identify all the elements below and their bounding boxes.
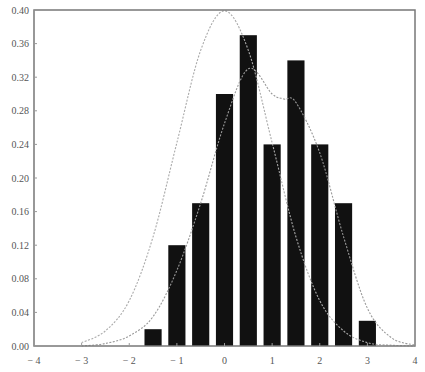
x-tick-label: − 4 [27, 355, 40, 366]
x-tick-label: 1 [270, 355, 275, 366]
histogram-bar [144, 329, 161, 346]
y-tick-label: 0.00 [12, 341, 30, 352]
y-tick-label: 0.28 [12, 105, 30, 116]
histogram-bar [216, 94, 233, 346]
y-tick-label: 0.20 [12, 173, 30, 184]
y-tick-label: 0.12 [12, 240, 30, 251]
y-tick-label: 0.36 [12, 38, 30, 49]
x-tick-label: − 1 [170, 355, 183, 366]
histogram-bar [192, 203, 209, 346]
y-tick-label: 0.16 [12, 206, 30, 217]
histogram-bar [335, 203, 352, 346]
y-axis: 0.000.040.080.120.160.200.240.280.320.36… [12, 5, 38, 352]
y-tick-label: 0.32 [12, 72, 30, 83]
x-tick-label: 3 [365, 355, 370, 366]
chart: 0.000.040.080.120.160.200.240.280.320.36… [0, 0, 425, 372]
y-tick-label: 0.08 [12, 273, 30, 284]
histogram-bar [168, 245, 185, 346]
histogram-bar [264, 144, 281, 346]
x-tick-label: − 3 [75, 355, 88, 366]
x-tick-label: 0 [222, 355, 227, 366]
x-tick-label: − 2 [123, 355, 136, 366]
histogram-bars [144, 35, 375, 346]
y-tick-label: 0.24 [12, 139, 30, 150]
x-tick-label: 4 [413, 355, 418, 366]
histogram-bar [359, 321, 376, 346]
histogram-bar [240, 35, 257, 346]
x-tick-label: 2 [317, 355, 322, 366]
y-tick-label: 0.40 [12, 5, 30, 16]
histogram-bar [311, 144, 328, 346]
y-tick-label: 0.04 [12, 307, 30, 318]
